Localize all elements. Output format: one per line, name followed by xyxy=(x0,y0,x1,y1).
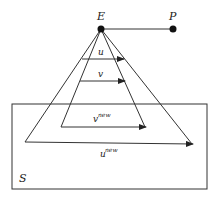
region-s-label: S xyxy=(19,172,27,185)
point-p-dot xyxy=(170,26,177,33)
point-e-dot xyxy=(98,26,105,33)
vector-v-new-label: v new xyxy=(93,111,111,124)
vector-u-label: u xyxy=(98,47,104,57)
outer-cone-left-line xyxy=(25,29,101,142)
vector-u-new-superscript: new xyxy=(105,146,118,153)
vector-u-new-label: u new xyxy=(100,146,118,159)
diagram-canvas: S E P u v v new u new xyxy=(0,0,217,199)
point-e-label: E xyxy=(96,10,105,23)
vector-v-new-superscript: new xyxy=(98,111,111,118)
inner-cone-left-line xyxy=(61,29,101,127)
vector-u-new-arrow xyxy=(25,142,193,144)
vector-v-label: v xyxy=(98,69,103,79)
point-p-label: P xyxy=(168,10,177,23)
